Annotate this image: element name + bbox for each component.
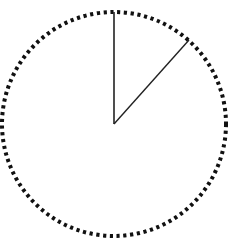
sector-diagram: [0, 0, 233, 246]
diagram-canvas: [0, 0, 233, 246]
angled-radius: [114, 40, 189, 124]
